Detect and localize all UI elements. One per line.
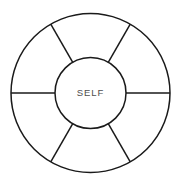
hub-label-self: SELF — [77, 87, 104, 98]
wheel-svg: SELF — [0, 0, 182, 186]
self-wheel-diagram: SELF — [0, 0, 182, 186]
